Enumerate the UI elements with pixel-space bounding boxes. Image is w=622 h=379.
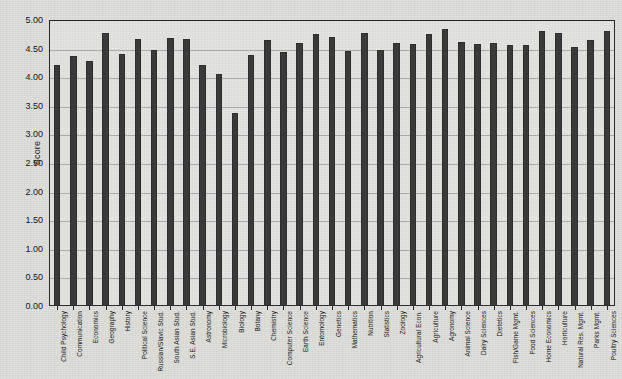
x-axis-tick bbox=[57, 306, 58, 310]
bar bbox=[119, 54, 126, 306]
x-axis-tick bbox=[251, 306, 252, 310]
x-axis-tick-label: Agriculture bbox=[432, 311, 439, 343]
bar bbox=[539, 31, 546, 306]
x-axis-tick bbox=[591, 306, 592, 310]
x-axis-tick bbox=[89, 306, 90, 310]
bar bbox=[490, 43, 497, 306]
y-axis-tick-label: 3.50 bbox=[3, 101, 43, 111]
x-axis-tick-labels: Child PsychologyCommunicationEconomicsGe… bbox=[49, 311, 615, 379]
x-axis-tick-label: Agricultural Econ. bbox=[415, 311, 422, 363]
bar bbox=[555, 33, 562, 306]
x-axis-tick-label: Animal Science bbox=[464, 311, 471, 356]
y-axis-tick-label: 3.00 bbox=[3, 129, 43, 139]
bar bbox=[248, 55, 255, 306]
x-axis-tick bbox=[283, 306, 284, 310]
bar bbox=[199, 65, 206, 306]
x-axis-tick bbox=[235, 306, 236, 310]
x-axis-tick-label: Dietetics bbox=[496, 311, 503, 336]
x-axis-tick bbox=[558, 306, 559, 310]
x-axis-tick bbox=[332, 306, 333, 310]
x-axis-tick-label: Chemistry bbox=[270, 311, 277, 341]
x-axis-tick bbox=[267, 306, 268, 310]
x-axis-tick bbox=[510, 306, 511, 310]
bar bbox=[426, 34, 433, 306]
y-axis-tick-label: 0.00 bbox=[3, 301, 43, 311]
x-axis-tick bbox=[494, 306, 495, 310]
y-axis-tick-label: 0.50 bbox=[3, 272, 43, 282]
bar bbox=[70, 56, 77, 306]
bar bbox=[345, 51, 352, 306]
x-axis-tick bbox=[186, 306, 187, 310]
bar bbox=[329, 37, 336, 306]
x-axis-tick-label: Dairy Sciences bbox=[480, 311, 487, 355]
bar bbox=[102, 33, 109, 306]
x-axis-tick-label: Nutrition bbox=[367, 311, 374, 336]
x-axis-tick bbox=[316, 306, 317, 310]
x-axis-tick-label: Microbiology bbox=[221, 311, 228, 348]
x-axis-tick bbox=[542, 306, 543, 310]
x-axis-tick-label: Earth Science bbox=[302, 311, 309, 352]
y-axis-tick-label: 2.00 bbox=[3, 187, 43, 197]
bar bbox=[523, 45, 530, 306]
x-axis-tick bbox=[300, 306, 301, 310]
x-axis-tick bbox=[397, 306, 398, 310]
x-axis-tick-label: Genetics bbox=[335, 311, 342, 337]
x-axis-tick-label: Entomology bbox=[318, 311, 325, 346]
bar bbox=[474, 44, 481, 306]
x-axis-tick-label: Horticulture bbox=[561, 311, 568, 345]
x-axis-tick bbox=[170, 306, 171, 310]
x-axis-tick-label: Political Science bbox=[141, 311, 148, 359]
bar bbox=[604, 31, 611, 306]
x-axis-tick-label: Fish/Game Mgmt. bbox=[512, 311, 519, 363]
x-axis-tick bbox=[154, 306, 155, 310]
x-axis-tick bbox=[526, 306, 527, 310]
bar bbox=[458, 42, 465, 306]
x-axis-tick-label: Food Sciences bbox=[529, 311, 536, 355]
x-axis-tick-label: Poultry Sciences bbox=[610, 311, 617, 360]
y-axis-tick-label: 5.00 bbox=[3, 15, 43, 25]
bar bbox=[86, 61, 93, 306]
bar bbox=[507, 45, 514, 306]
bar bbox=[151, 50, 158, 306]
x-axis-tick bbox=[364, 306, 365, 310]
x-axis-tick bbox=[381, 306, 382, 310]
x-axis-tick-label: Computer Science bbox=[286, 311, 293, 365]
bars-group bbox=[49, 20, 615, 306]
x-axis-tick bbox=[461, 306, 462, 310]
x-axis-tick-label: Astronomy bbox=[205, 311, 212, 342]
y-axis-tick-label: 4.50 bbox=[3, 44, 43, 54]
y-axis-tick-label: 1.00 bbox=[3, 244, 43, 254]
bar bbox=[216, 74, 223, 306]
x-axis-tick-label: Botany bbox=[254, 311, 261, 332]
x-axis-tick-label: Natural Res. Mgmt. bbox=[577, 311, 584, 368]
x-axis-tick bbox=[219, 306, 220, 310]
bar bbox=[442, 29, 449, 306]
x-axis-tick bbox=[607, 306, 608, 310]
x-axis-tick-label: Economics bbox=[92, 311, 99, 343]
x-axis-tick bbox=[445, 306, 446, 310]
x-axis-tick-label: Russian/Slavic Stud. bbox=[157, 311, 164, 372]
x-axis-tick bbox=[575, 306, 576, 310]
bar bbox=[135, 39, 142, 306]
bar bbox=[393, 43, 400, 306]
bar bbox=[361, 33, 368, 306]
x-axis-tick-label: Child Psychology bbox=[60, 311, 67, 362]
x-axis-tick-label: South Asian Stud. bbox=[173, 311, 180, 364]
bar-chart: Score 0.000.501.001.502.002.503.003.504.… bbox=[0, 0, 622, 379]
x-axis-tick bbox=[348, 306, 349, 310]
bar bbox=[167, 38, 174, 306]
y-axis-tick-label: 2.50 bbox=[3, 158, 43, 168]
x-axis-tick-label: History bbox=[124, 311, 131, 332]
bar bbox=[377, 50, 384, 306]
bar bbox=[587, 40, 594, 306]
y-axis-tick-label: 1.50 bbox=[3, 215, 43, 225]
bar bbox=[410, 44, 417, 306]
bar bbox=[313, 34, 320, 306]
x-axis-tick-label: Mathematics bbox=[351, 311, 358, 348]
x-axis-tick-label: Parks Mgmt. bbox=[593, 311, 600, 348]
bar bbox=[280, 52, 287, 306]
x-axis-tick-label: Home Economics bbox=[545, 311, 552, 362]
y-axis-tick-label: 4.00 bbox=[3, 72, 43, 82]
x-axis-tick bbox=[429, 306, 430, 310]
x-axis-tick-label: Geography bbox=[108, 311, 115, 344]
